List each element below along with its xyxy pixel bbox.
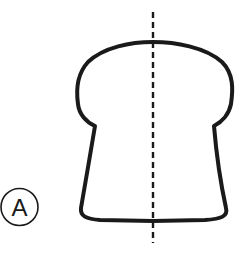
diagram-canvas: A xyxy=(0,0,251,254)
label-a-text: A xyxy=(11,194,27,221)
bread-slice-outline xyxy=(77,42,232,221)
